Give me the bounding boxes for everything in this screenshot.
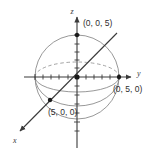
x-intercept-label: (5, 0, 0) — [48, 107, 77, 117]
y-intercept-label: (0, 5, 0) — [113, 84, 142, 94]
y-axis-label: y — [136, 69, 141, 78]
z-axis-label: z — [69, 7, 74, 16]
y-intercept-point — [117, 75, 121, 79]
x-intercept-point — [48, 98, 52, 102]
coordinate-system-figure: z y x (0, 0, 5) (0, 5, 0) (5, 0, 0) — [0, 0, 154, 154]
x-axis-label: x — [12, 136, 17, 145]
z-intercept-point — [75, 33, 79, 37]
z-intercept-label: (0, 0, 5) — [83, 18, 112, 28]
origin-point — [74, 74, 79, 79]
sphere-diagram: z y x (0, 0, 5) (0, 5, 0) (5, 0, 0) — [0, 0, 154, 154]
